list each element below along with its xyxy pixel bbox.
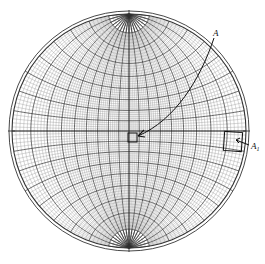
label-a1-subscript: 1 xyxy=(257,146,260,152)
wulff-net xyxy=(0,0,265,264)
bold-grid-lines xyxy=(12,14,246,248)
label-a1: A1 xyxy=(251,141,260,152)
label-a: A xyxy=(213,28,219,38)
